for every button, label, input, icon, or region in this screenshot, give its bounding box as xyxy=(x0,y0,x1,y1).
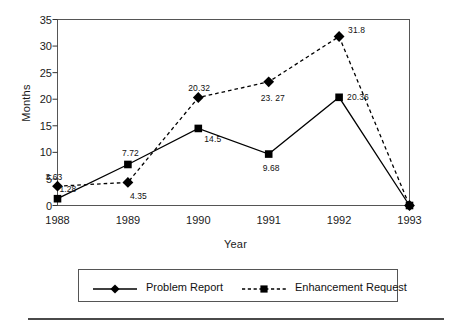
data-point-label: 1.28 xyxy=(60,184,77,194)
legend-swatch-enhancement-request xyxy=(242,281,286,293)
data-point-label: 20.36 xyxy=(347,92,369,102)
legend-label-enhancement-request: Enhancement Request xyxy=(295,281,407,293)
legend-label-problem-report: Problem Report xyxy=(146,281,223,293)
legend-item-problem-report: Problem Report xyxy=(93,270,223,303)
legend-swatch-problem-report xyxy=(93,281,137,293)
data-point-label: 31.8 xyxy=(348,25,365,35)
data-point-label: 3.63 xyxy=(46,172,63,182)
legend-item-enhancement-request: Enhancement Request xyxy=(242,270,407,303)
data-point-label: 7.72 xyxy=(122,148,139,158)
data-point-label: 23. 27 xyxy=(261,93,285,103)
data-point-label: 4.35 xyxy=(130,191,147,201)
footer-rule xyxy=(28,318,444,320)
data-point-label: 9.68 xyxy=(263,163,280,173)
chart-figure: 05101520253035 198819891990199119921993 … xyxy=(0,0,471,327)
x-axis-title: Year xyxy=(0,238,471,250)
chart-legend: Problem Report Enhancement Request xyxy=(78,269,398,302)
y-axis-title: Months xyxy=(20,73,32,133)
data-point-label: 14.5 xyxy=(204,134,221,144)
data-point-label: 20.32 xyxy=(188,83,210,93)
